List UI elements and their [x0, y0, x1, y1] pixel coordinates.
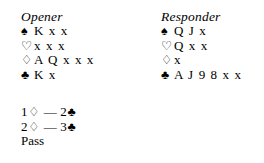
auction-round-2-opener-level: 2 — [21, 119, 28, 134]
hand-opener: Opener ♠ K x x ♡ x x x ♢ A Q x x x ♣ K x — [0, 9, 150, 82]
club-icon: ♣ — [161, 68, 174, 83]
auction-round-1-opener-level: 1 — [21, 104, 28, 119]
auction-round-1-dash: — — [40, 104, 60, 119]
diamond-icon: ♢ — [28, 105, 40, 119]
responder-diamond-cards: x — [174, 53, 182, 68]
club-icon: ♣ — [67, 105, 76, 119]
spade-icon: ♠ — [161, 24, 174, 39]
auction-round-2-dash: — — [40, 119, 60, 134]
hand-title-opener: Opener — [21, 9, 150, 24]
bridge-hand-diagram: Opener ♠ K x x ♡ x x x ♢ A Q x x x ♣ K x… — [0, 0, 264, 163]
opener-club-row: ♣ K x — [21, 68, 150, 83]
responder-club-row: ♣ A J 9 8 x x — [161, 68, 264, 83]
heart-icon: ♡ — [161, 39, 174, 54]
opener-spade-row: ♠ K x x — [21, 24, 150, 39]
diamond-icon: ♢ — [161, 53, 174, 68]
auction-sequence: 1♢—2♣ 2♢—3♣ Pass — [21, 105, 201, 149]
opener-spade-cards: K x x — [34, 24, 68, 39]
responder-spade-row: ♠ Q J x — [161, 24, 264, 39]
opener-diamond-row: ♢ A Q x x x — [21, 53, 150, 68]
hand-title-responder: Responder — [161, 9, 264, 24]
auction-round-2: 2♢—3♣ — [21, 120, 201, 135]
diamond-icon: ♢ — [28, 120, 40, 134]
responder-heart-row: ♡ Q x x — [161, 39, 264, 54]
hands-container: Opener ♠ K x x ♡ x x x ♢ A Q x x x ♣ K x… — [0, 9, 264, 82]
auction-round-1-responder-level: 2 — [60, 104, 67, 119]
responder-diamond-row: ♢ x — [161, 53, 264, 68]
responder-club-cards: A J 9 8 x x — [174, 68, 242, 83]
auction-round-2-responder-level: 3 — [60, 119, 67, 134]
spade-icon: ♠ — [21, 24, 34, 39]
opener-heart-cards: x x x — [34, 39, 66, 54]
club-icon: ♣ — [67, 120, 76, 134]
opener-diamond-cards: A Q x x x — [34, 53, 94, 68]
club-icon: ♣ — [21, 68, 34, 83]
responder-heart-cards: Q x x — [174, 39, 208, 54]
diamond-icon: ♢ — [21, 53, 34, 68]
heart-icon: ♡ — [21, 39, 34, 54]
hand-responder: Responder ♠ Q J x ♡ Q x x ♢ x ♣ A J 9 8 … — [150, 9, 264, 82]
opener-club-cards: K x — [34, 68, 56, 83]
auction-final-call: Pass — [21, 134, 201, 149]
responder-spade-cards: Q J x — [174, 24, 207, 39]
opener-heart-row: ♡ x x x — [21, 39, 150, 54]
auction-round-1: 1♢—2♣ — [21, 105, 201, 120]
